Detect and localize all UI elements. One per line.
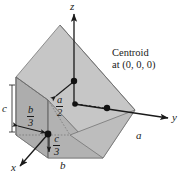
prism-centroid-figure: z y x a b c a 2 b 3 c 3 Centroid at (0, … <box>0 0 188 178</box>
prism-diagram-svg <box>0 0 188 178</box>
fraction-a-over-2: a 2 <box>56 95 63 118</box>
centroid-origin-dot <box>72 101 78 107</box>
fraction-c-denominator: 3 <box>53 147 60 158</box>
fraction-a-numerator: a <box>56 95 63 106</box>
x-axis-label: x <box>11 162 16 173</box>
dimension-c-label: c <box>2 103 7 114</box>
centroid-annotation-line1: Centroid <box>112 47 155 59</box>
fraction-b-over-3: b 3 <box>27 105 34 128</box>
z-axis-label: z <box>70 1 74 12</box>
centroid-annotation-line2: at (0, 0, 0) <box>112 59 155 71</box>
fraction-c-numerator: c <box>53 134 60 145</box>
fraction-b-denominator: 3 <box>27 118 34 129</box>
fraction-a-denominator: 2 <box>56 108 63 119</box>
corner-dot <box>45 131 52 138</box>
dimension-b-label: b <box>60 160 66 171</box>
y-axis-label: y <box>172 112 177 123</box>
y-axis-dot <box>104 105 110 111</box>
dimension-a-label: a <box>136 130 142 141</box>
prism-solid <box>16 25 135 158</box>
fraction-b-numerator: b <box>27 105 34 116</box>
fraction-c-over-3: c 3 <box>53 134 60 157</box>
centroid-annotation: Centroid at (0, 0, 0) <box>112 47 155 71</box>
upper-z-dot <box>71 78 77 84</box>
